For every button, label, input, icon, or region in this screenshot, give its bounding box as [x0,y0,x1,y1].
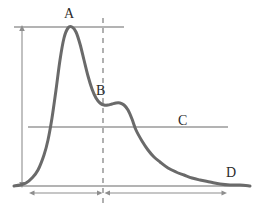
horizontal-left-span-arrow [29,191,103,196]
data-curve [14,27,250,186]
point-label-a: A [64,7,74,21]
horizontal-right-span-arrow [105,191,228,196]
point-label-c: C [178,114,187,128]
point-label-d: D [226,166,236,180]
vertical-height-arrow [19,25,25,188]
curve-figure: A B C D [0,0,254,217]
figure-canvas [0,0,254,217]
point-label-b: B [96,84,105,98]
